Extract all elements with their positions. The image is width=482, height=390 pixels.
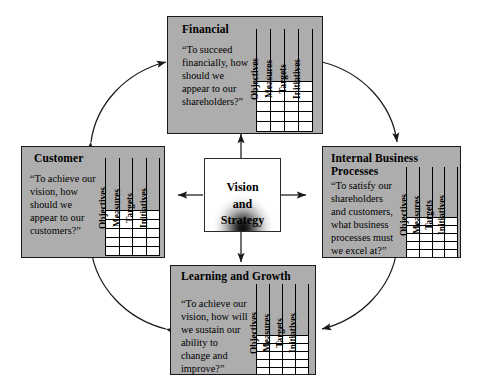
scorecard-cell[interactable] — [419, 242, 432, 250]
scorecard-cell[interactable] — [133, 238, 147, 247]
scorecard-row[interactable] — [106, 229, 160, 238]
scorecard-cell[interactable] — [407, 242, 420, 250]
scorecard-cell[interactable] — [283, 368, 296, 376]
scorecard-cell[interactable] — [283, 360, 296, 368]
scorecard-cell[interactable] — [285, 102, 299, 112]
scorecard-header-initiatives: Initiatives — [146, 158, 160, 211]
scorecard-row[interactable] — [257, 112, 313, 122]
scorecard-cell[interactable] — [285, 122, 299, 132]
scorecard-header-initiatives: Initiatives — [445, 167, 458, 218]
scorecard-cell[interactable] — [106, 229, 120, 238]
scorecard-table-customer[interactable]: Objectives Measures Targets Initiatives — [105, 158, 160, 256]
scorecard-cell[interactable] — [119, 238, 133, 247]
arrow-learning-customer — [91, 249, 166, 329]
scorecard-cell[interactable] — [270, 352, 283, 360]
scorecard-cell[interactable] — [299, 102, 313, 112]
scorecard-header-row: Objectives Measures Targets Initiatives — [257, 284, 309, 336]
scorecard-row[interactable] — [407, 250, 458, 258]
arrow-financial-internal — [322, 62, 397, 142]
vision-and-strategy-box[interactable]: Vision and Strategy — [204, 158, 281, 232]
perspective-box-customer[interactable]: Customer “To achieve our vision, how sho… — [21, 146, 165, 258]
scorecard-header-initiatives: Initiatives — [296, 284, 309, 336]
scorecard-cell[interactable] — [133, 247, 147, 256]
scorecard-cell[interactable] — [432, 250, 445, 258]
vision-and-strategy-label: Vision and Strategy — [205, 179, 280, 229]
scorecard-cell[interactable] — [296, 368, 309, 376]
scorecard-cell[interactable] — [270, 368, 283, 376]
scorecard-cell[interactable] — [299, 112, 313, 122]
scorecard-table-internal-business-processes[interactable]: Objectives Measures Targets Initiatives — [406, 167, 458, 258]
scorecard-cell[interactable] — [257, 360, 270, 368]
arrow-internal-learning — [322, 249, 397, 329]
balanced-scorecard-diagram: Financial “To succeed financially, how s… — [0, 0, 482, 390]
arrow-customer-financial — [91, 62, 166, 142]
scorecard-cell[interactable] — [119, 229, 133, 238]
scorecard-row[interactable] — [257, 360, 309, 368]
scorecard-cell[interactable] — [119, 247, 133, 256]
scorecard-row[interactable] — [257, 122, 313, 132]
scorecard-row[interactable] — [257, 368, 309, 376]
scorecard-header-row: Objectives Measures Targets Initiatives — [106, 158, 160, 211]
scorecard-cell[interactable] — [146, 229, 160, 238]
scorecard-cell[interactable] — [271, 112, 285, 122]
scorecard-cell[interactable] — [257, 368, 270, 376]
scorecard-row[interactable] — [106, 238, 160, 247]
perspective-title-learning-and-growth: Learning and Growth — [181, 270, 291, 283]
scorecard-header-row: Objectives Measures Targets Initiatives — [407, 167, 458, 218]
scorecard-cell[interactable] — [146, 238, 160, 247]
scorecard-cell[interactable] — [445, 242, 458, 250]
scorecard-cell[interactable] — [419, 250, 432, 258]
scorecard-cell[interactable] — [106, 247, 120, 256]
perspective-box-financial[interactable]: Financial “To succeed financially, how s… — [167, 16, 323, 134]
scorecard-row[interactable] — [257, 102, 313, 112]
scorecard-cell[interactable] — [419, 234, 432, 242]
scorecard-header-row: Objectives Measures Targets Initiatives — [257, 29, 313, 82]
scorecard-cell[interactable] — [299, 122, 313, 132]
scorecard-cell[interactable] — [432, 242, 445, 250]
scorecard-header-initiatives: Initiatives — [299, 29, 313, 82]
scorecard-cell[interactable] — [296, 360, 309, 368]
scorecard-cell[interactable] — [106, 238, 120, 247]
scorecard-cell[interactable] — [257, 102, 271, 112]
scorecard-cell[interactable] — [146, 247, 160, 256]
scorecard-cell[interactable] — [257, 122, 271, 132]
scorecard-table-financial[interactable]: Objectives Measures Targets Initiatives — [256, 29, 313, 132]
scorecard-cell[interactable] — [271, 122, 285, 132]
scorecard-row[interactable] — [407, 242, 458, 250]
perspective-title-customer: Customer — [34, 152, 83, 165]
scorecard-row[interactable] — [106, 247, 160, 256]
scorecard-cell[interactable] — [271, 102, 285, 112]
scorecard-cell[interactable] — [270, 360, 283, 368]
scorecard-cell[interactable] — [133, 229, 147, 238]
perspective-box-internal-business-processes[interactable]: Internal Business Processes “To satisfy … — [322, 146, 461, 258]
perspective-box-learning-and-growth[interactable]: Learning and Growth “To achieve our visi… — [170, 265, 316, 375]
scorecard-cell[interactable] — [257, 112, 271, 122]
scorecard-cell[interactable] — [407, 250, 420, 258]
scorecard-cell[interactable] — [285, 112, 299, 122]
scorecard-cell[interactable] — [445, 250, 458, 258]
scorecard-table-learning-and-growth[interactable]: Objectives Measures Targets Initiatives — [256, 284, 309, 375]
perspective-title-financial: Financial — [182, 23, 229, 36]
